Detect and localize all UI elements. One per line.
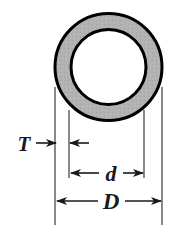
thickness-label: T bbox=[18, 132, 32, 156]
outer-diameter-label: D bbox=[102, 189, 120, 214]
tube-cross-section-figure: T d D bbox=[0, 0, 173, 236]
inner-diameter-label: d bbox=[106, 161, 118, 186]
figure-canvas: T d D bbox=[0, 0, 173, 236]
